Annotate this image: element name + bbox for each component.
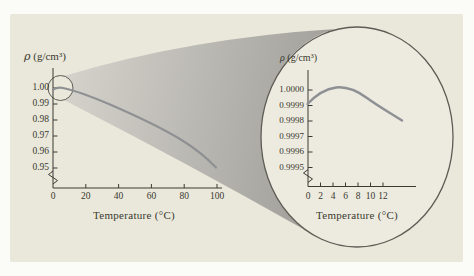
inset-y-tick-label: 0.9996 [267,147,304,156]
inset-y-axis-title: ρ (g/cm³) [280,53,317,64]
inset-y-tick-label: 0.9999 [267,101,304,110]
inset-y-tick-label: 1.0000 [267,85,304,94]
figure-graphics [0,0,474,276]
inset-y-tick-label: 0.9997 [267,132,304,141]
main-x-tick-label: 80 [169,192,199,202]
main-x-tick-label: 40 [104,192,134,202]
main-y-tick-label: 0.95 [22,163,49,173]
main-x-tick-label: 100 [202,192,232,202]
main-x-axis-title: Temperature (°C) [64,210,204,222]
inset-y-tick-label: 0.9995 [267,163,304,172]
textbook-figure: ρ (g/cm³) 1.00 0.99 0.98 0.97 0.96 0.95 … [0,0,474,276]
rho-units: (g/cm³) [30,50,65,62]
main-x-tick-label: 20 [71,192,101,202]
main-y-axis-title: ρ (g/cm³) [24,51,66,63]
main-y-tick-label: 0.97 [22,131,49,141]
main-y-tick-label: 0.98 [22,115,49,125]
main-y-tick-label: 0.99 [22,99,49,109]
rho-units: (g/cm³) [285,52,317,63]
main-y-tick-label: 0.96 [22,147,49,157]
main-y-tick-label: 1.00 [22,83,49,93]
inset-x-axis-title: Temperature (°C) [287,210,427,222]
main-x-tick-label: 0 [38,192,68,202]
inset-x-tick-label: 12 [373,192,393,202]
main-x-tick-label: 60 [136,192,166,202]
inset-y-tick-label: 0.9998 [267,116,304,125]
